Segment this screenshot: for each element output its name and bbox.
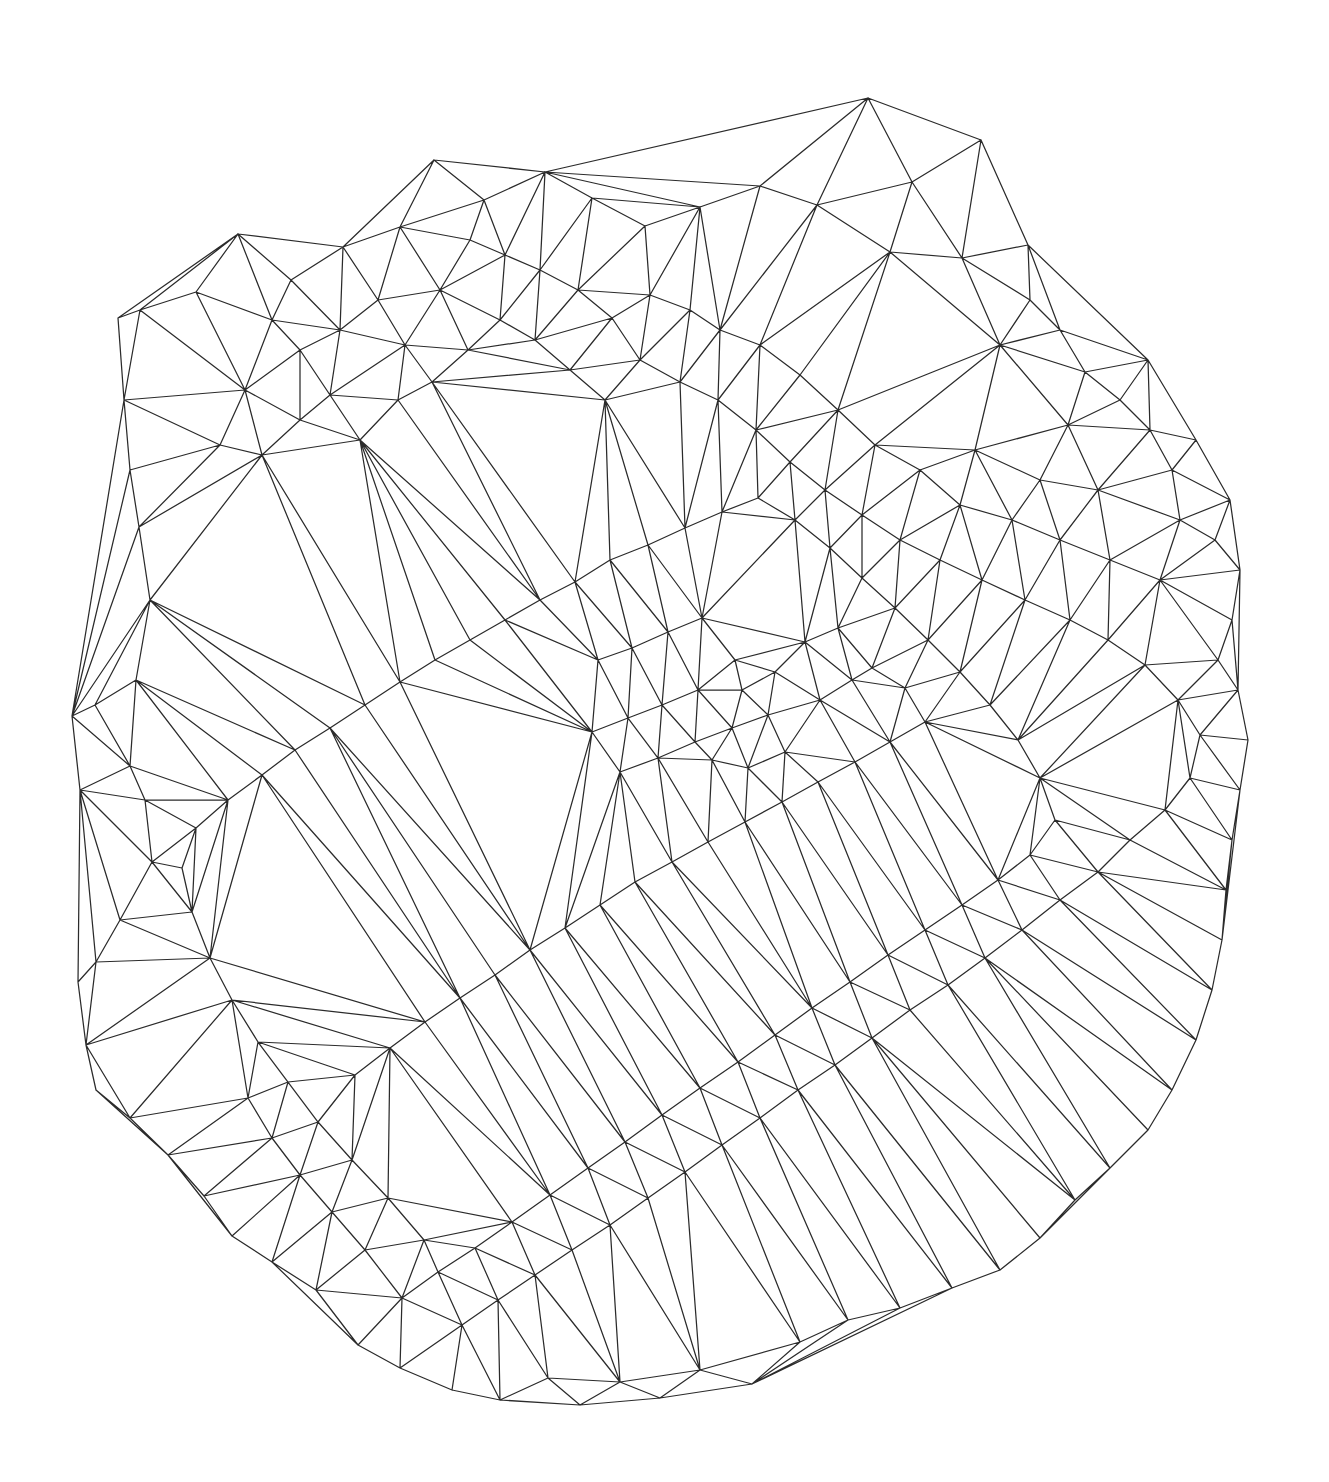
mesh-background [0, 0, 1329, 1482]
triangulated-mesh-svg [0, 0, 1329, 1482]
figure-root [0, 0, 1329, 1482]
